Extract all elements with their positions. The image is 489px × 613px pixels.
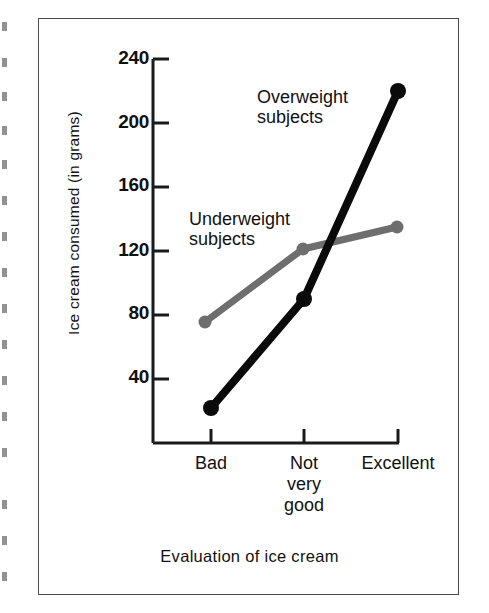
edge-mark [2,536,7,545]
y-tick-label-80: 80 [89,302,149,324]
x-tick-label-excellent-line1: Excellent [361,453,434,473]
y-tick-label-200: 200 [89,111,149,133]
x-tick-label-bad: Bad [171,453,251,474]
edge-mark [2,268,7,277]
x-tick-label-not-very-good: Not very good [264,453,344,516]
line-chart: Ice cream consumed (in grams) 240 200 16… [39,19,460,596]
x-tick-label-nvg-line3: good [264,495,344,516]
annotation-overweight-line1: Overweight [257,87,348,107]
annotation-overweight-line2: subjects [257,107,323,127]
underweight-point-excellent [391,221,404,234]
annotation-underweight-line1: Underweight [189,209,290,229]
edge-mark [2,340,7,349]
edge-mark [2,126,7,135]
edge-mark [2,572,7,581]
underweight-point-not-very-good [297,243,310,256]
x-tick-label-excellent: Excellent [343,453,453,474]
y-tick-label-240: 240 [89,47,149,69]
overweight-point-not-very-good [296,291,312,307]
edge-mark [2,376,7,385]
annotation-overweight-subjects: Overweight subjects [257,87,348,127]
edge-mark [2,412,7,421]
edge-mark [2,448,7,457]
edge-mark [2,304,7,313]
overweight-point-bad [203,400,219,416]
y-tick-label-160: 160 [89,174,149,196]
edge-mark [2,232,7,241]
figure-frame: Ice cream consumed (in grams) 240 200 16… [38,18,459,595]
edge-mark [2,92,7,101]
annotation-underweight-line2: subjects [189,229,255,249]
edge-mark [2,196,7,205]
edge-mark [2,160,7,169]
edge-mark [2,500,7,509]
x-tick-label-bad-line1: Bad [195,453,227,473]
overweight-point-excellent [390,83,406,99]
x-tick-label-nvg-line2: very [264,474,344,495]
page-edge-artifacts [0,0,14,613]
y-tick-label-40: 40 [89,366,149,388]
x-tick-label-nvg-line1: Not [290,453,318,473]
edge-mark [2,58,7,67]
y-axis-title: Ice cream consumed (in grams) [65,58,83,388]
annotation-underweight-subjects: Underweight subjects [189,209,290,249]
y-tick-label-120: 120 [89,239,149,261]
underweight-point-bad [199,316,212,329]
edge-mark [2,22,7,31]
x-axis-title: Evaluation of ice cream [39,547,460,566]
